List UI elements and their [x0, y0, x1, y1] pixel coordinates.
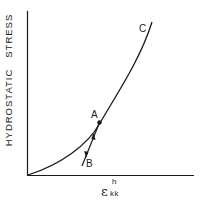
point-c-label: C [139, 24, 146, 34]
point-a-label: A [91, 110, 98, 120]
point-a-marker [97, 120, 101, 124]
stress-strain-diagram [0, 0, 200, 211]
loading-curve [28, 22, 152, 175]
x-axis-label-symbol: ε [101, 184, 108, 199]
point-b-label: B [86, 159, 93, 169]
x-axis-label-subscript: kk [110, 190, 119, 198]
x-axis-label: ε h kk [101, 183, 108, 199]
arrow-down-icon [84, 151, 88, 158]
x-axis-label-superscript: h [112, 178, 116, 186]
y-axis-label: HYDROSTATIC STRESS [3, 10, 15, 150]
